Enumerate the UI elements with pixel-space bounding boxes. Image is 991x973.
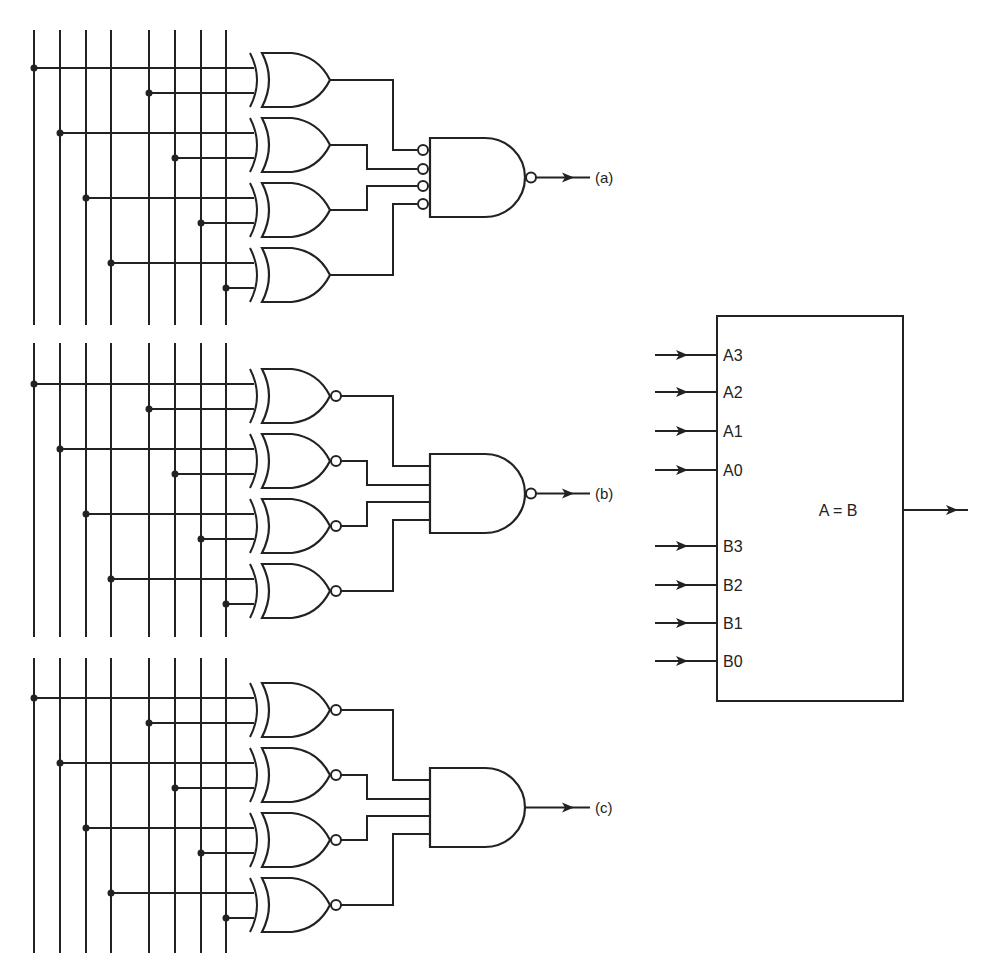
- xor-curve: [250, 118, 257, 172]
- section-b: (b): [31, 343, 614, 637]
- xor-curve: [250, 748, 257, 802]
- pin-label-a1: A1: [723, 423, 743, 440]
- xnor-gate-icon: [262, 564, 330, 618]
- gate-output-wire: [330, 204, 417, 275]
- xor-curve: [250, 499, 257, 553]
- gate-output-wire: [341, 520, 430, 591]
- xor-curve: [250, 813, 257, 867]
- inverter-bubble-icon: [331, 900, 341, 910]
- junction-dot-icon: [223, 285, 230, 292]
- junction-dot-icon: [146, 90, 153, 97]
- gate-output-wire: [341, 816, 430, 840]
- inverter-bubble-icon: [418, 164, 428, 174]
- comparator-diagram: (a)(b)(c) A3A2A1A0B3B2B1B0 A = B: [0, 0, 991, 973]
- xor-curve: [250, 248, 257, 302]
- junction-dot-icon: [223, 915, 230, 922]
- section-label: (a): [595, 169, 613, 186]
- junction-dot-icon: [57, 130, 64, 137]
- xor-curve: [250, 434, 257, 488]
- xor-gate-icon: [262, 183, 330, 237]
- junction-dot-icon: [31, 65, 38, 72]
- nand-gate-icon: [430, 138, 525, 217]
- inverter-bubble-icon: [331, 586, 341, 596]
- gate-output-wire: [341, 396, 430, 466]
- gate-output-wire: [341, 710, 430, 780]
- section-c: (c): [31, 658, 613, 953]
- gate-output-wire: [330, 145, 417, 169]
- junction-dot-icon: [198, 536, 205, 543]
- pin-label-b2: B2: [723, 577, 743, 594]
- xor-curve: [250, 564, 257, 618]
- xnor-gate-icon: [262, 878, 330, 932]
- junction-dot-icon: [108, 890, 115, 897]
- junction-dot-icon: [83, 511, 90, 518]
- junction-dot-icon: [108, 260, 115, 267]
- inverter-bubble-icon: [418, 145, 428, 155]
- gate-output-wire: [330, 186, 417, 210]
- xor-gate-icon: [262, 118, 330, 172]
- junction-dot-icon: [146, 720, 153, 727]
- junction-dot-icon: [172, 155, 179, 162]
- junction-dot-icon: [198, 850, 205, 857]
- junction-dot-icon: [83, 195, 90, 202]
- pin-label-a0: A0: [723, 462, 743, 479]
- inverter-bubble-icon: [331, 835, 341, 845]
- pin-label-a2: A2: [723, 384, 743, 401]
- xnor-gate-icon: [262, 683, 330, 737]
- inverter-bubble-icon: [418, 181, 428, 191]
- inverter-bubble-icon: [331, 705, 341, 715]
- inverter-bubble-icon: [331, 391, 341, 401]
- xnor-gate-icon: [262, 499, 330, 553]
- junction-dot-icon: [172, 471, 179, 478]
- inverter-bubble-icon: [331, 770, 341, 780]
- inverter-bubble-icon: [331, 521, 341, 531]
- xor-curve: [250, 53, 257, 107]
- junction-dot-icon: [57, 446, 64, 453]
- junction-dot-icon: [172, 785, 179, 792]
- inverter-bubble-icon: [526, 173, 536, 183]
- junction-dot-icon: [146, 406, 153, 413]
- gate-output-wire: [341, 461, 430, 485]
- output-label: A = B: [819, 502, 858, 519]
- inverter-bubble-icon: [331, 456, 341, 466]
- junction-dot-icon: [31, 695, 38, 702]
- pin-label-b3: B3: [723, 538, 743, 555]
- junction-dot-icon: [223, 601, 230, 608]
- pin-label-b1: B1: [723, 615, 743, 632]
- gate-output-wire: [330, 80, 417, 150]
- xnor-gate-icon: [262, 813, 330, 867]
- and-gate-icon: [430, 768, 525, 847]
- junction-dot-icon: [198, 220, 205, 227]
- section-label: (b): [595, 485, 613, 502]
- gate-output-wire: [341, 834, 430, 905]
- junction-dot-icon: [31, 381, 38, 388]
- xnor-gate-icon: [262, 748, 330, 802]
- gate-sections: (a)(b)(c): [31, 30, 614, 953]
- xor-curve: [250, 683, 257, 737]
- xor-curve: [250, 369, 257, 423]
- section-label: (c): [595, 799, 613, 816]
- comparator-block: A3A2A1A0B3B2B1B0 A = B: [655, 316, 968, 701]
- junction-dot-icon: [83, 825, 90, 832]
- xor-curve: [250, 878, 257, 932]
- junction-dot-icon: [108, 576, 115, 583]
- comparator-box: [717, 316, 903, 701]
- pin-label-b0: B0: [723, 653, 743, 670]
- inverter-bubble-icon: [526, 489, 536, 499]
- junction-dot-icon: [57, 760, 64, 767]
- gate-output-wire: [341, 502, 430, 526]
- xor-gate-icon: [262, 53, 330, 107]
- gate-output-wire: [341, 775, 430, 799]
- section-a: (a): [31, 30, 614, 325]
- nand-gate-icon: [430, 454, 525, 533]
- pin-label-a3: A3: [723, 347, 743, 364]
- xor-curve: [250, 183, 257, 237]
- inverter-bubble-icon: [418, 199, 428, 209]
- xnor-gate-icon: [262, 369, 330, 423]
- xnor-gate-icon: [262, 434, 330, 488]
- xor-gate-icon: [262, 248, 330, 302]
